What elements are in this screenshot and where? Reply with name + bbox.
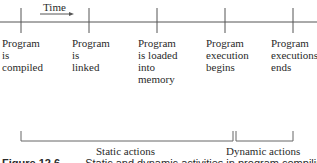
figure-caption-text: Static and dynamic activities in program… bbox=[85, 157, 317, 163]
event-line: linked bbox=[72, 61, 110, 73]
event-line: Program bbox=[206, 37, 249, 49]
dynamic-bracket bbox=[236, 131, 293, 141]
event-line: into bbox=[138, 61, 177, 73]
static-bracket bbox=[21, 131, 233, 141]
event-line: executions bbox=[271, 49, 317, 61]
event-label-loaded: Program is loaded into memory bbox=[138, 37, 177, 85]
event-line: is bbox=[2, 49, 43, 61]
event-line: ends bbox=[271, 61, 317, 73]
event-line: Program bbox=[138, 37, 177, 49]
event-line: Program bbox=[271, 37, 317, 49]
event-line: is bbox=[72, 49, 110, 61]
time-label: Time bbox=[43, 1, 66, 13]
event-line: memory bbox=[138, 73, 177, 85]
event-line: begins bbox=[206, 61, 249, 73]
event-line: is loaded bbox=[138, 49, 177, 61]
event-line: Program bbox=[72, 37, 110, 49]
event-line: compiled bbox=[2, 61, 43, 73]
event-line: Program bbox=[2, 37, 43, 49]
figure-number: Figure 12.6 bbox=[2, 157, 60, 163]
dynamic-actions-label: Dynamic actions bbox=[226, 145, 300, 157]
event-line: execution bbox=[206, 49, 249, 61]
event-label-exec-ends: Program executions ends bbox=[271, 37, 317, 73]
event-label-exec-begins: Program execution begins bbox=[206, 37, 249, 73]
static-actions-label: Static actions bbox=[96, 145, 155, 157]
event-label-linked: Program is linked bbox=[72, 37, 110, 73]
figure-caption: Figure 12.6 Static and dynamic activitie… bbox=[2, 157, 317, 163]
event-label-compiled: Program is compiled bbox=[2, 37, 43, 73]
